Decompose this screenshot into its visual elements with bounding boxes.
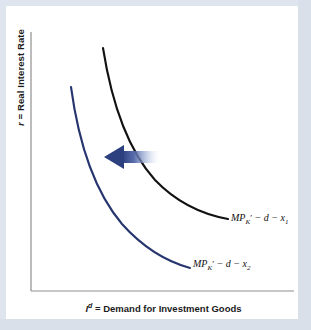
shift-arrow-head [104, 145, 124, 169]
curve-label-shifted-rest: − d − x [214, 258, 247, 269]
curve-label-initial: MPK′ − d − x1 [231, 212, 289, 226]
shift-arrow-tail [122, 151, 161, 163]
curve-label-shifted: MPK′ − d − x2 [193, 258, 251, 272]
curve-label-shifted-base: MP [193, 258, 207, 269]
curve-label-initial-rest: − d − x [252, 212, 285, 223]
curve-label-initial-index: 1 [285, 218, 289, 226]
plot-area [0, 0, 311, 330]
curve-shifted-demand [71, 87, 190, 268]
curve-label-shifted-index: 2 [247, 264, 251, 272]
curve-initial-demand [103, 48, 228, 219]
curve-label-initial-base: MP [231, 212, 245, 223]
investment-demand-shift-figure: r = Real Interest Rate Id = Demand for I… [0, 0, 311, 330]
